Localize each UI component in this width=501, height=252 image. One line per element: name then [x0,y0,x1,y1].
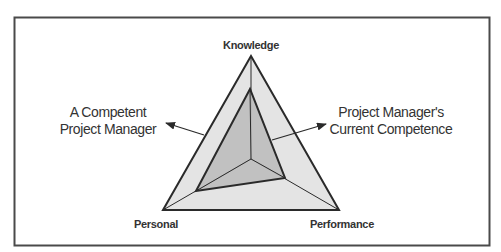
axis-label-knowledge: Knowledge [223,39,279,51]
callout-right-line1: Project Manager's [338,104,444,120]
callout-left-line1: A Competent [70,104,147,120]
axis-label-performance: Performance [310,218,374,230]
callout-right-line2: Current Competence [330,121,453,137]
callout-left-line2: Project Manager [60,121,157,137]
competence-diagram: Knowledge Personal Performance A Compete… [0,0,501,252]
arrow-competent-pm [166,123,204,135]
axis-label-personal: Personal [134,218,178,230]
